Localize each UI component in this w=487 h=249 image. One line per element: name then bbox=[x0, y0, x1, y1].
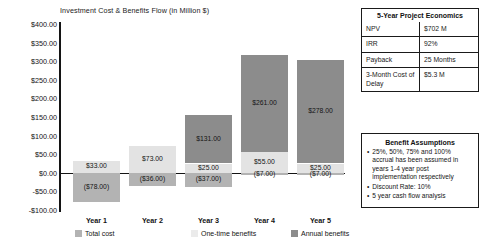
slide-canvas: Investment Cost & Benefits Flow (in Mill… bbox=[0, 0, 487, 249]
y-tick-label: $50.00 bbox=[1, 150, 57, 159]
y-axis-tick-labels: $400.00$350.00$300.00$250.00$200.00$150.… bbox=[0, 0, 57, 249]
x-axis-label: Year 3 bbox=[185, 216, 232, 225]
table-row: Payback25 Months bbox=[362, 52, 478, 67]
assumption-bullet: •25%, 50%, 75% and 100% accrual has been… bbox=[367, 148, 473, 182]
table-cell-value: 92% bbox=[420, 37, 478, 51]
bar-value-label: $55.00 bbox=[254, 159, 275, 166]
x-axis-label: Year 1 bbox=[73, 216, 120, 225]
bar-segment-annual-benefits[interactable]: $131.00 bbox=[185, 115, 232, 164]
bar-segment-total-cost[interactable]: ($78.00) bbox=[73, 173, 120, 202]
bullet-dot-icon: • bbox=[367, 183, 369, 191]
bullet-dot-icon: • bbox=[367, 148, 369, 182]
legend-swatch-icon bbox=[191, 230, 198, 237]
benefit-assumptions-box: Benefit Assumptions •25%, 50%, 75% and 1… bbox=[361, 133, 479, 208]
table-cell-value: 25 Months bbox=[420, 53, 478, 67]
y-tick-label: $200.00 bbox=[1, 94, 57, 103]
y-tick-label: -$100.00 bbox=[1, 206, 57, 215]
bar-value-label: ($37.00) bbox=[196, 176, 221, 183]
bar-group[interactable]: $55.00$261.00($7.00) bbox=[241, 24, 288, 210]
chart-title: Investment Cost & Benefits Flow (in Mill… bbox=[60, 6, 209, 15]
table-cell-metric: Payback bbox=[362, 53, 420, 67]
project-economics-table: 5-Year Project Economics NPV$702 MIRR92%… bbox=[361, 8, 479, 92]
y-tick-label: $350.00 bbox=[1, 39, 57, 48]
table-row: IRR92% bbox=[362, 36, 478, 51]
y-tick-label: $0.00 bbox=[1, 169, 57, 178]
bar-value-label: $33.00 bbox=[86, 163, 107, 170]
bar-group[interactable]: $25.00$131.00($37.00) bbox=[185, 24, 232, 210]
y-tick-label: $300.00 bbox=[1, 57, 57, 66]
bar-group[interactable]: $73.00($36.00) bbox=[129, 24, 176, 210]
table-cell-metric: 3-Month Cost of Delay bbox=[362, 68, 420, 91]
bar-value-label: ($36.00) bbox=[140, 176, 165, 183]
assumptions-title: Benefit Assumptions bbox=[367, 139, 473, 146]
bar-segment-total-cost[interactable]: ($7.00) bbox=[297, 173, 344, 176]
bar-segment-annual-benefits[interactable]: $261.00 bbox=[241, 55, 288, 152]
bar-value-label: $278.00 bbox=[308, 108, 333, 115]
bar-segment-one-time-benefits[interactable]: $73.00 bbox=[129, 146, 176, 173]
x-axis-label: Year 5 bbox=[297, 216, 344, 225]
bar-value-label: $261.00 bbox=[252, 100, 277, 107]
legend-label: Annual benefits bbox=[301, 230, 349, 237]
table-cell-metric: IRR bbox=[362, 37, 420, 51]
y-tick-label: -$50.00 bbox=[1, 187, 57, 196]
y-tick-label: $250.00 bbox=[1, 76, 57, 85]
assumption-text: 5 year cash flow analysis bbox=[372, 192, 473, 200]
table-cell-value: $702 M bbox=[420, 22, 478, 36]
bar-group[interactable]: $33.00($78.00) bbox=[73, 24, 120, 210]
bar-segment-annual-benefits[interactable]: $278.00 bbox=[297, 60, 344, 163]
bar-value-label: ($7.00) bbox=[310, 171, 332, 178]
bar-segment-one-time-benefits[interactable]: $25.00 bbox=[185, 164, 232, 173]
legend-label: One-time benefits bbox=[201, 230, 256, 237]
bar-segment-one-time-benefits[interactable]: $33.00 bbox=[73, 161, 120, 173]
table-header-row: 5-Year Project Economics bbox=[362, 9, 478, 22]
y-tick-label: $100.00 bbox=[1, 132, 57, 141]
y-tick-label: $150.00 bbox=[1, 113, 57, 122]
legend-label: Total cost bbox=[85, 230, 115, 237]
bar-value-label: ($7.00) bbox=[254, 171, 276, 178]
bar-segment-total-cost[interactable]: ($36.00) bbox=[129, 173, 176, 186]
assumption-text: 25%, 50%, 75% and 100% accrual has been … bbox=[372, 148, 473, 182]
bar-group[interactable]: $25.00$278.00($7.00) bbox=[297, 24, 344, 210]
chart-legend: Total costOne-time benefitsAnnual benefi… bbox=[61, 230, 351, 244]
assumption-bullet: •Discount Rate: 10% bbox=[367, 183, 473, 191]
bar-value-label: $131.00 bbox=[196, 136, 221, 143]
bar-plot-area: $33.00($78.00)$73.00($36.00)$25.00$131.0… bbox=[61, 24, 345, 210]
table-row: 3-Month Cost of Delay$5.3 M bbox=[362, 67, 478, 91]
chart-panel: Investment Cost & Benefits Flow (in Mill… bbox=[0, 0, 358, 249]
legend-item[interactable]: One-time benefits bbox=[191, 230, 256, 237]
x-axis-label: Year 2 bbox=[129, 216, 176, 225]
bar-segment-total-cost[interactable]: ($7.00) bbox=[241, 173, 288, 176]
assumptions-list: •25%, 50%, 75% and 100% accrual has been… bbox=[367, 148, 473, 201]
bar-value-label: ($78.00) bbox=[84, 184, 109, 191]
legend-item[interactable]: Total cost bbox=[75, 230, 115, 237]
legend-swatch-icon bbox=[75, 230, 82, 237]
table-cell-metric: NPV bbox=[362, 22, 420, 36]
table-body: NPV$702 MIRR92%Payback25 Months3-Month C… bbox=[362, 22, 478, 91]
assumption-bullet: •5 year cash flow analysis bbox=[367, 192, 473, 200]
y-tick-label: $400.00 bbox=[1, 20, 57, 29]
x-axis-label: Year 4 bbox=[241, 216, 288, 225]
legend-swatch-icon bbox=[291, 230, 298, 237]
bar-value-label: $73.00 bbox=[142, 156, 163, 163]
table-row: NPV$702 M bbox=[362, 22, 478, 36]
table-title: 5-Year Project Economics bbox=[362, 9, 478, 22]
bar-segment-total-cost[interactable]: ($37.00) bbox=[185, 173, 232, 187]
bullet-dot-icon: • bbox=[367, 192, 369, 200]
legend-item[interactable]: Annual benefits bbox=[291, 230, 349, 237]
table-cell-value: $5.3 M bbox=[420, 68, 478, 91]
bar-value-label: $25.00 bbox=[198, 165, 219, 172]
assumption-text: Discount Rate: 10% bbox=[372, 183, 473, 191]
